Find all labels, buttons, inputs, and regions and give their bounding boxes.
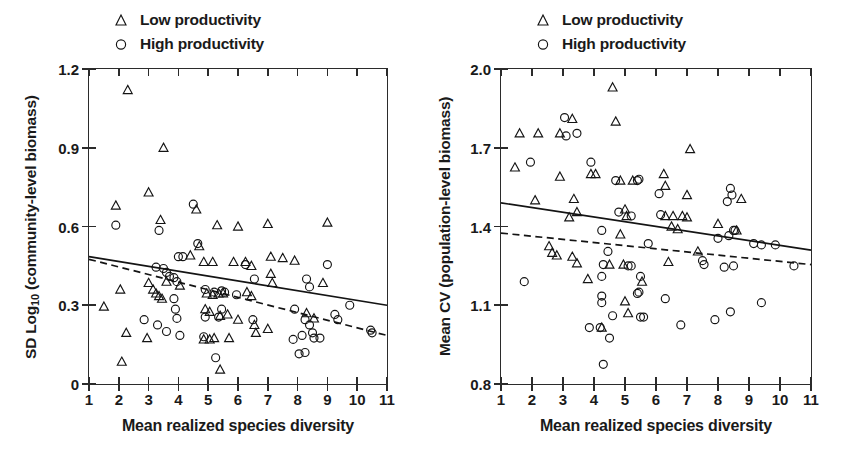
data-point-circle [728, 191, 736, 199]
regression-lines-left [89, 69, 387, 384]
data-point-circle [657, 211, 665, 219]
x-tick-mark-inner [178, 377, 180, 384]
data-point-circle [241, 261, 249, 269]
data-point-circle [367, 326, 375, 334]
data-point-triangle [611, 117, 620, 125]
y-tick-label: 1.2 [58, 61, 79, 78]
x-tick-label: 7 [264, 391, 272, 408]
x-tick-label: 3 [144, 391, 152, 408]
data-point-circle [637, 313, 645, 321]
x-tick-mark-inner [118, 377, 120, 384]
data-point-triangle [619, 260, 628, 268]
x-tick-label: 2 [528, 391, 536, 408]
x-tick-mark-inner [356, 377, 358, 384]
x-tick-mark-inner [148, 377, 150, 384]
data-point-circle [711, 316, 719, 324]
data-point-triangle [678, 211, 687, 219]
x-tick-mark-top [267, 69, 269, 76]
x-tick-mark [500, 384, 502, 391]
data-point-triangle [158, 294, 167, 302]
data-point-triangle [510, 163, 519, 171]
y-tick-mark-inner [501, 226, 508, 228]
panel-left: Low productivity High productivity SD Lo… [0, 0, 422, 457]
y-tick-mark-inner [89, 304, 96, 306]
legend-item-low-productivity: Low productivity [110, 8, 360, 32]
data-point-triangle [199, 335, 208, 343]
x-tick-mark-top [717, 69, 719, 76]
data-point-circle [771, 241, 779, 249]
data-point-triangle [199, 257, 208, 265]
regression-lines-right [501, 69, 811, 384]
data-point-circle [720, 263, 728, 271]
x-tick-label: 6 [234, 391, 242, 408]
x-tick-mark [237, 384, 239, 391]
x-tick-mark [297, 384, 299, 391]
data-point-triangle [122, 328, 131, 336]
x-tick-label: 11 [379, 391, 395, 408]
legend-right: Low productivity High productivity [532, 8, 782, 56]
x-tick-mark-top [593, 69, 595, 76]
data-point-triangle [216, 311, 225, 319]
data-point-circle [301, 349, 309, 357]
data-point-triangle [621, 205, 630, 213]
data-point-circle [644, 240, 652, 248]
x-tick-label: 6 [652, 391, 660, 408]
x-tick-label: 5 [621, 391, 629, 408]
x-tick-mark-inner [327, 377, 329, 384]
regression-line-solid [501, 203, 811, 250]
data-point-triangle [152, 289, 161, 297]
x-tick-mark-top [356, 69, 358, 76]
y-tick-label: 1.1 [470, 297, 491, 314]
x-tick-mark-top [500, 69, 502, 76]
data-point-circle [624, 262, 632, 270]
data-point-triangle [302, 309, 311, 317]
data-point-triangle [661, 181, 670, 189]
x-tick-mark-inner [686, 377, 688, 384]
data-point-triangle [318, 278, 327, 286]
data-point-circle [790, 262, 798, 270]
data-point-circle [714, 234, 722, 242]
y-tick-label: 0 [71, 376, 79, 393]
legend-label-high-productivity: High productivity [562, 32, 686, 56]
circle-icon [110, 32, 132, 56]
data-point-circle [346, 301, 354, 309]
y-tick-mark [82, 226, 89, 228]
figure-container: Low productivity High productivity SD Lo… [0, 0, 844, 457]
data-point-circle [165, 272, 173, 280]
data-point-triangle [591, 169, 600, 177]
data-point-circle [615, 208, 623, 216]
data-point-triangle [583, 274, 592, 282]
data-point-circle [526, 158, 534, 166]
y-tick-label: 2.0 [470, 61, 491, 78]
regression-line-dashed [501, 233, 811, 265]
x-tick-label: 4 [174, 391, 182, 408]
data-point-triangle [210, 333, 219, 341]
data-point-triangle [202, 289, 211, 297]
data-point-triangle [686, 144, 695, 152]
data-point-circle [635, 175, 643, 183]
data-point-circle [179, 253, 187, 261]
data-point-circle [723, 198, 731, 206]
x-tick-label: 8 [293, 391, 301, 408]
data-point-triangle [225, 333, 234, 341]
data-point-triangle [548, 248, 557, 256]
x-tick-mark [178, 384, 180, 391]
data-point-circle [201, 286, 209, 294]
x-tick-mark [624, 384, 626, 391]
data-point-triangle [572, 207, 581, 215]
data-point-triangle [669, 211, 678, 219]
x-tick-label: 11 [803, 391, 819, 408]
data-point-triangle [201, 305, 210, 313]
data-point-triangle [123, 85, 132, 93]
data-point-triangle [597, 323, 606, 331]
x-tick-mark-inner [562, 377, 564, 384]
data-point-circle [612, 177, 620, 185]
data-point-circle [301, 316, 309, 324]
x-tick-mark-top [88, 69, 90, 76]
x-tick-mark-top [624, 69, 626, 76]
x-axis-title-right: Mean realized species diversity [500, 417, 812, 435]
data-point-circle [306, 321, 314, 329]
data-point-triangle [638, 277, 647, 285]
y-tick-mark-inner [501, 147, 508, 149]
x-tick-mark-inner [500, 377, 502, 384]
